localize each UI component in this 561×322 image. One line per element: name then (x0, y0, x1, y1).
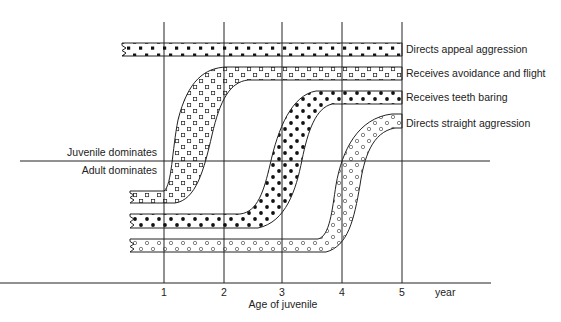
behavior-diagram: Directs appeal aggression Receives avoid… (0, 0, 561, 322)
tick-year-2: 2 (221, 286, 227, 298)
axis-unit-year: year (435, 286, 456, 298)
tick-year-4: 4 (339, 286, 345, 298)
band-appeal-aggression (122, 43, 402, 56)
label-appeal-aggression: Directs appeal aggression (406, 43, 528, 55)
tick-year-3: 3 (279, 286, 285, 298)
label-teeth-baring: Receives teeth baring (406, 91, 508, 103)
tick-year-1: 1 (161, 286, 167, 298)
label-straight-aggression: Directs straight aggression (406, 117, 530, 129)
x-axis-label: Age of juvenile (249, 298, 318, 310)
label-juvenile-dominates: Juvenile dominates (67, 146, 157, 158)
label-adult-dominates: Adult dominates (82, 164, 157, 176)
label-avoidance-flight: Receives avoidance and flight (406, 67, 546, 79)
tick-year-5: 5 (399, 286, 405, 298)
